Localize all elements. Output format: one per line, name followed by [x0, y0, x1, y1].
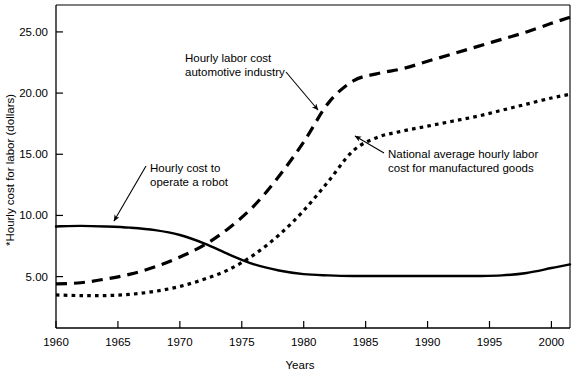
y-tick-label: 5.00	[26, 271, 48, 283]
y-tick-label: 15.00	[19, 148, 48, 160]
annotation-leader-arrow	[114, 166, 146, 221]
x-tick-label: 1985	[353, 336, 379, 348]
line-chart: 5.0010.0015.0020.0025.00 196019651970197…	[0, 0, 578, 381]
x-tick-label: 1980	[291, 336, 317, 348]
annotation-leader-arrow	[355, 136, 384, 153]
series-line-dotted	[56, 94, 570, 295]
x-axis-ticks: 196019651970197519801985199019952000	[43, 321, 564, 348]
y-tick-label: 20.00	[19, 87, 48, 99]
annotation-label: Hourly cost tooperate a robot	[150, 162, 229, 188]
y-tick-label: 10.00	[19, 209, 48, 221]
x-axis-title: Years	[286, 359, 315, 371]
chart-page: 5.0010.0015.0020.0025.00 196019651970197…	[0, 0, 578, 381]
x-tick-label: 1960	[43, 336, 69, 348]
x-tick-label: 1990	[415, 336, 441, 348]
y-tick-label: 25.00	[19, 26, 48, 38]
annotation-label: National average hourly laborcost for ma…	[388, 148, 538, 174]
x-tick-label: 1995	[477, 336, 503, 348]
annotation-label: Hourly labor costautomotive industry	[185, 52, 285, 78]
x-tick-label: 1970	[167, 336, 193, 348]
annotation-leader-arrow	[286, 72, 318, 110]
series-line-solid	[56, 226, 570, 276]
x-tick-label: 2000	[539, 336, 565, 348]
x-tick-label: 1975	[229, 336, 255, 348]
annotations: Hourly labor costautomotive industryHour…	[114, 52, 538, 221]
y-axis-title: *Hourly cost for labor (dollars)	[4, 94, 16, 246]
x-tick-label: 1965	[105, 336, 131, 348]
